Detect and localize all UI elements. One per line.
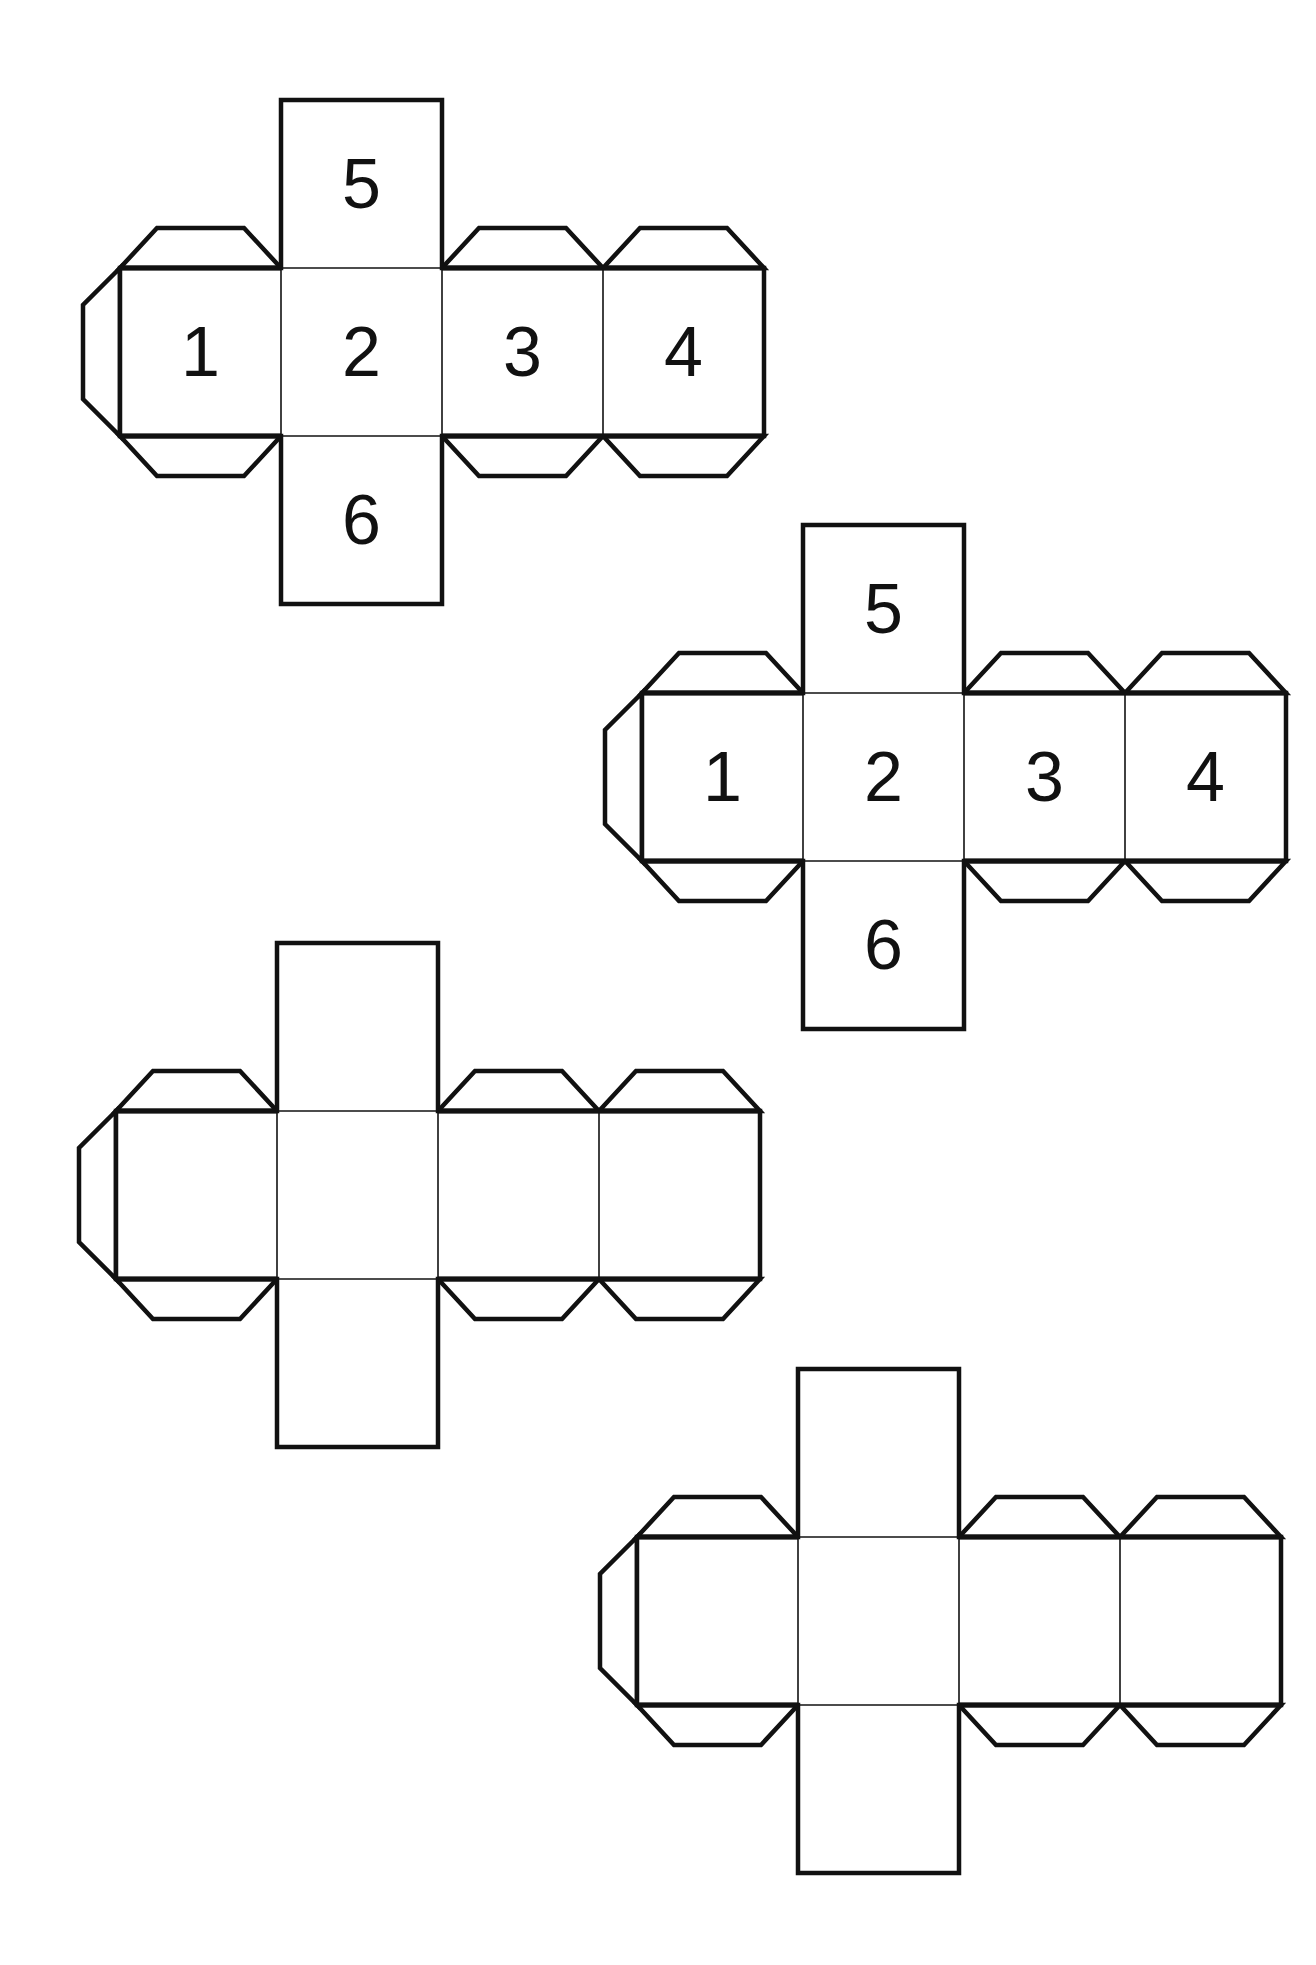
face-label-center: 2 [864, 738, 903, 816]
face-center [798, 1537, 959, 1705]
face-label-right2: 4 [664, 313, 703, 391]
face-label-top: 5 [864, 570, 903, 648]
face-label-left: 1 [703, 738, 742, 816]
face-bottom [798, 1705, 959, 1873]
face-right1 [959, 1537, 1120, 1705]
face-label-bottom: 6 [342, 481, 381, 559]
face-label-bottom: 6 [864, 906, 903, 984]
face-center [277, 1111, 438, 1279]
face-right2 [599, 1111, 760, 1279]
face-label-right2: 4 [1186, 738, 1225, 816]
face-label-right1: 3 [1025, 738, 1064, 816]
face-label-center: 2 [342, 313, 381, 391]
cube-nets-sheet: 5 1 2 3 4 6 5 1 2 3 4 6 [0, 0, 1316, 1965]
face-bottom [277, 1279, 438, 1447]
face-top [277, 943, 438, 1111]
face-right1 [438, 1111, 599, 1279]
face-top [798, 1369, 959, 1537]
face-right2 [1120, 1537, 1281, 1705]
face-label-left: 1 [181, 313, 220, 391]
face-left [116, 1111, 277, 1279]
face-label-right1: 3 [503, 313, 542, 391]
face-label-top: 5 [342, 145, 381, 223]
face-left [637, 1537, 798, 1705]
